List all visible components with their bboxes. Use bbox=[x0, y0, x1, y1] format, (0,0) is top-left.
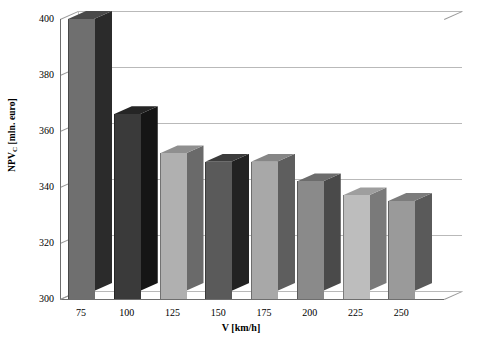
bar-125[interactable] bbox=[160, 145, 186, 299]
bar-face-100 bbox=[114, 114, 141, 299]
bar-side-100 bbox=[140, 106, 158, 299]
bar-side-225 bbox=[369, 187, 387, 299]
floor-right-edge bbox=[444, 291, 462, 300]
y-tick-label-400: 400 bbox=[20, 14, 54, 24]
x-tick-label-225: 225 bbox=[333, 308, 379, 318]
bar-side-125 bbox=[186, 145, 204, 299]
x-tick-label-125: 125 bbox=[150, 308, 196, 318]
plot-area: 3003203403603804007510012515017520022525… bbox=[0, 0, 482, 347]
y-tick-label-300: 300 bbox=[20, 294, 54, 304]
bar-150[interactable] bbox=[205, 154, 231, 299]
y-tick-label-380: 380 bbox=[20, 70, 54, 80]
bar-75[interactable] bbox=[68, 11, 94, 299]
y-tick-label-340: 340 bbox=[20, 182, 54, 192]
y-axis-line bbox=[60, 19, 61, 299]
x-tick-label-100: 100 bbox=[104, 308, 150, 318]
bar-side-250 bbox=[414, 193, 432, 299]
y-tick-label-320: 320 bbox=[20, 238, 54, 248]
bar-225[interactable] bbox=[343, 187, 369, 299]
bar-100[interactable] bbox=[114, 106, 140, 299]
bar-side-200 bbox=[323, 173, 341, 299]
bar-face-125 bbox=[160, 153, 187, 299]
bar-250[interactable] bbox=[388, 193, 414, 299]
bar-chart: NPVC [mln. euro] V [km/h] 30032034036038… bbox=[0, 0, 482, 347]
x-tick-label-200: 200 bbox=[287, 308, 333, 318]
bar-side-150 bbox=[231, 154, 249, 299]
bar-face-200 bbox=[297, 181, 324, 299]
bar-face-75 bbox=[68, 19, 95, 299]
y-tick-label-360: 360 bbox=[20, 126, 54, 136]
top-right-riser bbox=[444, 11, 462, 20]
bar-face-150 bbox=[205, 162, 232, 299]
bar-side-175 bbox=[277, 154, 295, 299]
bar-face-175 bbox=[251, 162, 278, 299]
x-tick-label-175: 175 bbox=[241, 308, 287, 318]
bar-face-225 bbox=[343, 195, 370, 299]
bar-side-75 bbox=[94, 11, 112, 299]
gridline-380 bbox=[78, 67, 462, 68]
x-tick-label-250: 250 bbox=[378, 308, 424, 318]
x-tick-label-150: 150 bbox=[195, 308, 241, 318]
bar-175[interactable] bbox=[251, 154, 277, 299]
back-wall-top-edge bbox=[78, 11, 462, 12]
x-tick-label-75: 75 bbox=[58, 308, 104, 318]
x-axis-line bbox=[60, 299, 444, 300]
bar-200[interactable] bbox=[297, 173, 323, 299]
bar-face-250 bbox=[388, 201, 415, 299]
